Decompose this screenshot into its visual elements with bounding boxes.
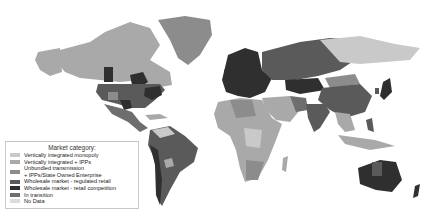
region-central-africa: [244, 128, 262, 148]
region-japan: [380, 78, 392, 100]
legend-swatch: [10, 160, 20, 164]
legend-item-in-transition: In transition: [10, 192, 134, 199]
region-india: [306, 104, 330, 132]
region-caribbean: [145, 114, 168, 120]
region-greenland: [158, 16, 212, 65]
legend-item-regulated-retail: Wholesale market - regulated retail: [10, 178, 134, 185]
legend-item-integrated-ipps: Vertically integrated + IPPs: [10, 159, 134, 166]
legend-swatch: [10, 186, 20, 190]
legend-swatch: [10, 193, 20, 197]
legend-label: In transition: [24, 192, 53, 199]
region-new-zealand: [413, 184, 420, 198]
legend-label: Vertically integrated + IPPs: [24, 159, 91, 166]
legend-swatch: [10, 199, 20, 203]
legend-label: Unbundled transmission + IPPs/State Owne…: [24, 165, 102, 178]
legend-label: No Data: [24, 198, 45, 205]
legend-item-retail-competition: Wholesale market - retail competition: [10, 185, 134, 192]
region-madagascar: [282, 156, 288, 172]
region-usa-west: [108, 92, 118, 100]
legend-item-no-data: No Data: [10, 198, 134, 205]
region-alberta: [104, 67, 113, 82]
legend-swatch: [10, 170, 20, 174]
region-korea: [375, 88, 379, 94]
legend-item-monopoly: Vertically integrated monopoly: [10, 152, 134, 159]
map-legend: Market category: Vertically integrated m…: [5, 141, 139, 209]
region-indonesia: [338, 135, 395, 150]
legend-title: Market category:: [10, 144, 134, 151]
legend-swatch: [10, 153, 20, 157]
legend-label: Vertically integrated monopoly: [24, 152, 99, 159]
region-canada: [55, 22, 172, 88]
region-south-africa: [246, 160, 264, 180]
region-australia-wa: [372, 162, 382, 176]
legend-item-unbundled: Unbundled transmission + IPPs/State Owne…: [10, 165, 134, 178]
legend-label: Wholesale market - retail competition: [24, 185, 116, 192]
legend-label: Wholesale market - regulated retail: [24, 178, 111, 185]
legend-swatch: [10, 180, 20, 184]
region-alaska: [35, 48, 62, 76]
region-kazakhstan: [285, 78, 325, 94]
region-philippines: [366, 118, 374, 132]
